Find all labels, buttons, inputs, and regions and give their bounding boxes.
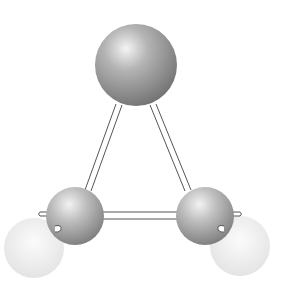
notch-left: [55, 226, 61, 233]
bond-top-left: [85, 104, 122, 191]
atom-top: [95, 24, 177, 106]
atom-bottom-right: [176, 187, 234, 245]
molecule-diagram: [0, 0, 289, 282]
bond-bottom: [100, 212, 180, 219]
bond-stub-right: [233, 212, 242, 216]
notch-right: [218, 226, 224, 233]
bond-top-right: [150, 104, 191, 191]
bond-stub-left: [39, 212, 48, 216]
atom-bottom-left: [46, 187, 104, 245]
